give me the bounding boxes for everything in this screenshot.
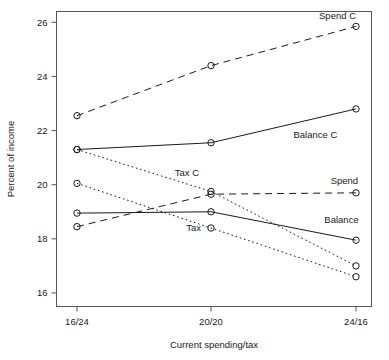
line-chart-canvas: 16182022242616/2420/2024/16 Spend CBalan…	[0, 0, 389, 360]
annotation-layer: Spend CBalance CTax CSpendBalanceTax	[175, 10, 359, 233]
y-tick-label: 22	[37, 125, 48, 136]
x-tick-label: 16/24	[65, 316, 89, 327]
axes-layer: 16182022242616/2420/2024/16	[37, 12, 372, 327]
data-point-tax	[353, 274, 359, 280]
y-tick-label: 26	[37, 17, 48, 28]
series-annotation-spend: Spend	[331, 175, 358, 186]
y-tick-label: 16	[37, 287, 48, 298]
series-line-spend-c	[77, 26, 356, 115]
series-line-spend	[77, 193, 356, 227]
data-point-spend-c	[208, 62, 214, 68]
series-line-tax	[77, 183, 356, 276]
chart-figure: 16182022242616/2420/2024/16 Spend CBalan…	[0, 0, 389, 360]
series-annotation-tax: Tax	[186, 222, 201, 233]
y-tick-label: 24	[37, 71, 48, 82]
series-annotation-spend-c: Spend C	[319, 10, 356, 21]
plot-frame	[57, 12, 372, 307]
y-tick-label: 18	[37, 233, 48, 244]
series-line-tax-c	[77, 150, 356, 266]
series-annotation-tax-c: Tax C	[175, 167, 199, 178]
x-tick-label: 20/20	[199, 316, 223, 327]
series-annotation-balance-c: Balance C	[293, 129, 337, 140]
x-tick-label: 24/16	[344, 316, 368, 327]
y-tick-label: 20	[37, 179, 48, 190]
series-layer	[74, 23, 359, 280]
series-annotation-balance: Balance	[324, 214, 358, 225]
data-point-tax-c	[353, 263, 359, 269]
series-line-balance	[77, 212, 356, 240]
x-axis-title: Current spending/tax	[170, 339, 258, 350]
y-axis-title: Percent of income	[5, 121, 16, 198]
